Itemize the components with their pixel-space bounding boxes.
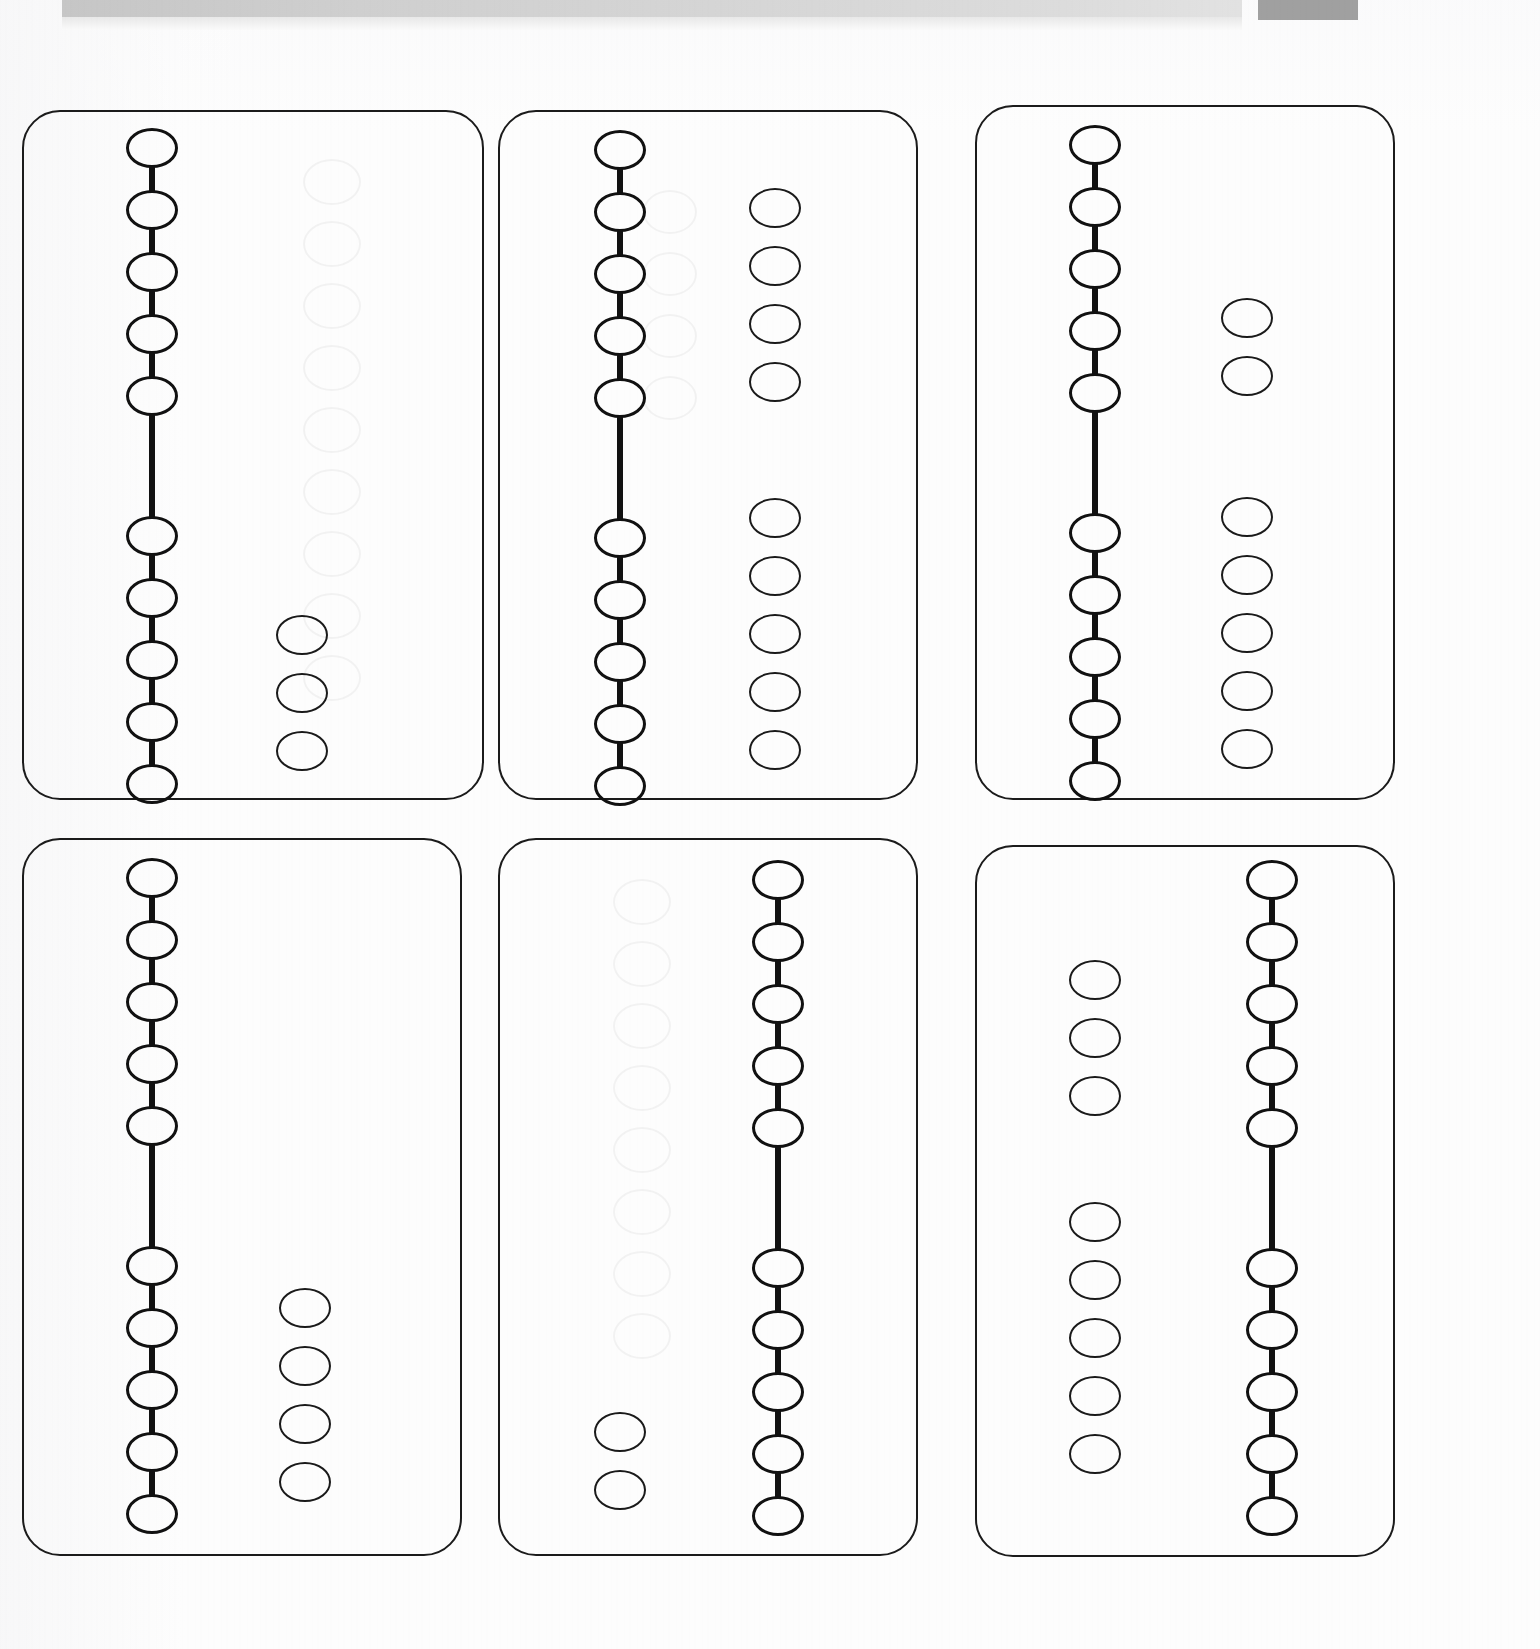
card-grid — [0, 0, 1540, 1649]
chain-connector — [1269, 1285, 1275, 1313]
chain-connector — [1269, 1021, 1275, 1049]
chain-connector — [1269, 1083, 1275, 1111]
loose-bead — [1069, 1318, 1121, 1358]
loose-bead — [1069, 1076, 1121, 1116]
chain-bead — [1246, 922, 1298, 962]
chain-bead — [1246, 860, 1298, 900]
loose-bead — [1069, 1260, 1121, 1300]
chain-connector — [1269, 1145, 1275, 1251]
chain-connector — [1269, 1409, 1275, 1437]
chain-bead — [1246, 1108, 1298, 1148]
chain-connector — [1269, 1471, 1275, 1499]
chain-bead — [1246, 1434, 1298, 1474]
chain-bead — [1246, 1372, 1298, 1412]
chain-bead — [1246, 1310, 1298, 1350]
loose-bead — [1069, 1018, 1121, 1058]
chain-connector — [1269, 1347, 1275, 1375]
loose-bead — [1069, 1434, 1121, 1474]
loose-bead — [1069, 960, 1121, 1000]
worksheet-page — [0, 0, 1540, 1649]
chain-bead — [1246, 1496, 1298, 1536]
chain-bead — [1246, 984, 1298, 1024]
chain-connector — [1269, 897, 1275, 925]
card-content-area — [0, 0, 1540, 1649]
loose-bead — [1069, 1202, 1121, 1242]
chain-bead — [1246, 1248, 1298, 1288]
chain-bead — [1246, 1046, 1298, 1086]
chain-connector — [1269, 959, 1275, 987]
loose-bead — [1069, 1376, 1121, 1416]
